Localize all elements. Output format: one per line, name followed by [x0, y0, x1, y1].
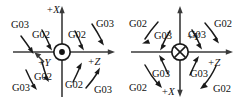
arc-direction-figure: +X +Z +Y G03 G02 G02 G03 G02 G03 G02 G03 [0, 0, 242, 103]
axis-label-up: +X [46, 4, 60, 15]
quadrant-top-right-inner-label: G02 [68, 29, 86, 40]
quadrant-bottom-left-outer-label: G03 [12, 82, 30, 93]
axis-label-right: +Z [208, 57, 221, 68]
quadrant-top-left-outer-label: G02 [129, 18, 147, 29]
quadrant-bottom-right-outer-label: G02 [213, 83, 231, 94]
arc-direction-diagram-xz-plane: +X +Z +Y G03 G02 G02 G03 G02 G03 G02 G03 [0, 0, 121, 103]
quadrant-bottom-left-outer-label: G02 [129, 82, 147, 93]
circle-dot-icon [54, 44, 70, 60]
quadrant-bottom-right-outer-label: G03 [94, 84, 112, 95]
axis-label-oblique: +Y [38, 57, 52, 68]
axis-label-right: +Z [88, 56, 101, 67]
quadrant-top-left-inner-label: G02 [32, 29, 50, 40]
arc-direction-diagram-yz-plane: +Y +Z +X G02 G03 G03 G02 G03 G02 G03 G02 [121, 0, 242, 103]
quadrant-top-left-outer-label: G03 [11, 19, 29, 30]
quadrant-top-right-inner-label: G03 [188, 29, 206, 40]
circle-cross-icon [172, 44, 188, 60]
quadrant-bottom-left-inner-label: G02 [34, 71, 52, 82]
quadrant-top-right-outer-label: G02 [214, 18, 232, 29]
quadrant-bottom-right-inner-label: G03 [190, 68, 208, 79]
axis-label-down: +X [161, 86, 175, 97]
quadrant-top-right-outer-label: G03 [96, 18, 114, 29]
quadrant-bottom-right-inner-label: G02 [65, 79, 83, 90]
quadrant-top-left-inner-label: G03 [154, 30, 172, 41]
quadrant-bottom-left-inner-label: G03 [152, 68, 170, 79]
